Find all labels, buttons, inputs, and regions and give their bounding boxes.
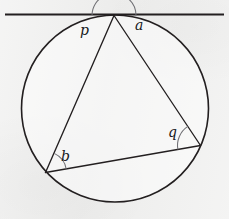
- angle-label-a: a: [135, 18, 143, 32]
- geometry-figure: p a b q: [0, 0, 229, 219]
- circle: [22, 15, 209, 202]
- angle-arc-p: [92, 0, 105, 16]
- diagram-canvas: [0, 0, 229, 219]
- angle-label-q: q: [168, 125, 177, 139]
- angle-arc-a: [126, 0, 136, 16]
- angle-label-p: p: [80, 23, 89, 37]
- angle-label-b: b: [61, 149, 70, 163]
